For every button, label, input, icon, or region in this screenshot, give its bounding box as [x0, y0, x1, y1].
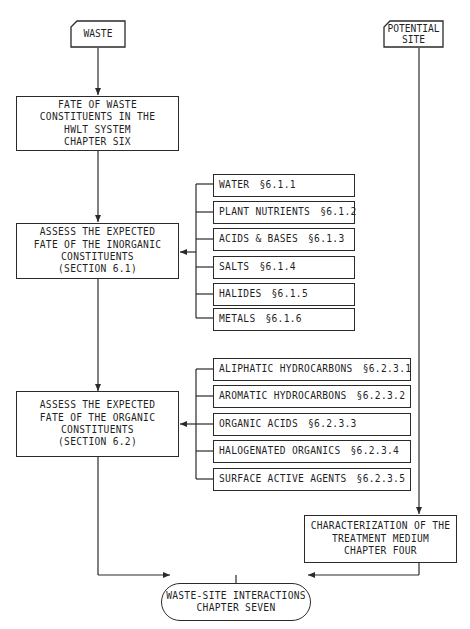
inorganic-item-metals: METALS§6.1.6: [213, 308, 355, 331]
item-label: ORGANIC ACIDS: [219, 418, 298, 429]
item-section: §6.2.3.5: [357, 473, 406, 484]
medium-line-2: TREATMENT MEDIUM: [332, 533, 429, 545]
treatment-medium-box: CHARACTERIZATION OF THE TREATMENT MEDIUM…: [304, 515, 457, 563]
fate-line-4: CHAPTER SIX: [64, 136, 131, 148]
item-section: §6.2.3.3: [308, 418, 357, 429]
item-section: §6.2.3.1: [363, 363, 412, 374]
item-section: §6.2.3.4: [351, 445, 400, 456]
item-section: §6.1.5: [272, 288, 308, 299]
item-label: ACIDS & BASES: [219, 233, 298, 244]
organic-item-aromatic: AROMATIC HYDROCARBONS§6.2.3.2: [213, 385, 411, 408]
fate-line-1: FATE OF WASTE: [58, 99, 137, 111]
inorganic-line-3: CONSTITUENTS: [61, 251, 134, 263]
organic-line-2: FATE OF THE ORGANIC: [40, 412, 155, 424]
item-section: §6.1.2: [320, 206, 356, 217]
item-section: §6.1.3: [308, 233, 344, 244]
organic-line-4: (SECTION 6.2): [58, 436, 137, 448]
medium-line-3: CHAPTER FOUR: [344, 545, 417, 557]
inorganic-item-salts: SALTS§6.1.4: [213, 256, 355, 279]
inorganic-item-water: WATER§6.1.1: [213, 174, 355, 197]
item-label: HALOGENATED ORGANICS: [219, 445, 341, 456]
output-line-2: CHAPTER SEVEN: [197, 602, 276, 614]
organic-item-halogenated: HALOGENATED ORGANICS§6.2.3.4: [213, 440, 411, 463]
organic-line-1: ASSESS THE EXPECTED: [40, 399, 155, 411]
inorganic-assessment-box: ASSESS THE EXPECTED FATE OF THE INORGANI…: [16, 223, 179, 279]
inorganic-line-4: (SECTION 6.1): [58, 263, 137, 275]
fate-line-2: CONSTITUENTS IN THE: [40, 111, 155, 123]
potential-site-line-1: POTENTIAL: [383, 23, 444, 34]
item-label: WATER: [219, 179, 249, 190]
waste-input-node: WASTE: [70, 20, 126, 48]
item-label: METALS: [219, 313, 255, 324]
organic-item-organic-acids: ORGANIC ACIDS§6.2.3.3: [213, 413, 411, 436]
organic-assessment-box: ASSESS THE EXPECTED FATE OF THE ORGANIC …: [16, 391, 179, 457]
organic-item-surface-active: SURFACE ACTIVE AGENTS§6.2.3.5: [213, 468, 411, 491]
item-label: ALIPHATIC HYDROCARBONS: [219, 363, 353, 374]
item-section: §6.1.1: [259, 179, 295, 190]
organic-line-3: CONSTITUENTS: [61, 424, 134, 436]
inorganic-item-acids-bases: ACIDS & BASES§6.1.3: [213, 228, 355, 251]
inorganic-item-halides: HALIDES§6.1.5: [213, 283, 355, 306]
item-label: SURFACE ACTIVE AGENTS: [219, 473, 347, 484]
item-label: SALTS: [219, 261, 249, 272]
item-section: §6.1.4: [259, 261, 295, 272]
potential-site-node: POTENTIAL SITE: [383, 20, 444, 48]
item-section: §6.1.6: [265, 313, 301, 324]
item-label: PLANT NUTRIENTS: [219, 206, 310, 217]
waste-site-interactions-terminal: WASTE-SITE INTERACTIONS CHAPTER SEVEN: [161, 583, 311, 621]
inorganic-item-plant-nutrients: PLANT NUTRIENTS§6.1.2: [213, 201, 355, 224]
fate-line-3: HWLT SYSTEM: [64, 124, 131, 136]
potential-site-line-2: SITE: [383, 34, 444, 45]
item-label: AROMATIC HYDROCARBONS: [219, 390, 347, 401]
fate-of-waste-box: FATE OF WASTE CONSTITUENTS IN THE HWLT S…: [16, 96, 179, 151]
medium-line-1: CHARACTERIZATION OF THE: [311, 520, 451, 532]
item-section: §6.2.3.2: [357, 390, 406, 401]
inorganic-line-1: ASSESS THE EXPECTED: [40, 226, 155, 238]
organic-item-aliphatic: ALIPHATIC HYDROCARBONS§6.2.3.1: [213, 358, 411, 381]
item-label: HALIDES: [219, 288, 262, 299]
inorganic-line-2: FATE OF THE INORGANIC: [34, 239, 162, 251]
waste-label: WASTE: [70, 20, 126, 48]
output-line-1: WASTE-SITE INTERACTIONS: [166, 590, 306, 602]
